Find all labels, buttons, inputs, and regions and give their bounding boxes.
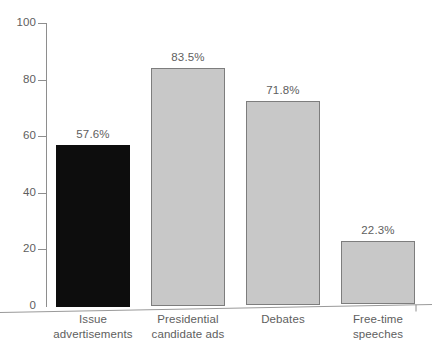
category-label-line1: Issue: [43, 312, 143, 327]
y-tick-80: [38, 80, 47, 81]
y-tick-60: [38, 136, 47, 137]
y-tick-100: [38, 23, 47, 24]
bar-value-presidential-candidate-ads: 83.5%: [153, 51, 223, 63]
bar-value-free-time-speeches: 22.3%: [343, 224, 413, 236]
y-axis-line: [46, 23, 47, 307]
category-label-line2: candidate ads: [138, 327, 238, 342]
category-label-line2: advertisements: [43, 327, 143, 342]
y-tick-label-80-wrap: 80: [0, 74, 36, 86]
y-tick-label-60: 60: [2, 130, 36, 142]
category-label-issue-advertisements: Issue advertisements: [43, 312, 143, 342]
y-tick-label-100-wrap: 100: [0, 17, 36, 29]
y-tick-label-20-wrap: 20: [0, 243, 36, 255]
category-label-line1: Debates: [233, 312, 333, 327]
category-label-presidential-candidate-ads: Presidential candidate ads: [138, 312, 238, 342]
category-label-line2: speeches: [328, 327, 428, 342]
category-label-debates: Debates: [233, 312, 333, 327]
y-tick-label-100: 100: [2, 17, 36, 29]
bar-presidential-candidate-ads: [151, 68, 225, 306]
category-label-line1: Free-time: [328, 312, 428, 327]
y-tick-40: [38, 193, 47, 194]
bar-debates: [246, 101, 320, 305]
y-tick-label-80: 80: [2, 74, 36, 86]
y-tick-label-20: 20: [2, 243, 36, 255]
y-tick-label-40-wrap: 40: [0, 187, 36, 199]
bar-chart: 100 80 60 40 20 0 57.6% Issue advertisem…: [0, 0, 432, 358]
category-label-free-time-speeches: Free-time speeches: [328, 312, 428, 342]
y-tick-label-40: 40: [2, 187, 36, 199]
category-label-line1: Presidential: [138, 312, 238, 327]
bar-value-issue-advertisements: 57.6%: [58, 128, 128, 140]
y-tick-label-60-wrap: 60: [0, 130, 36, 142]
bar-value-debates: 71.8%: [248, 84, 318, 96]
bar-free-time-speeches: [341, 241, 415, 304]
y-tick-20: [38, 249, 47, 250]
bar-issue-advertisements: [56, 145, 130, 307]
